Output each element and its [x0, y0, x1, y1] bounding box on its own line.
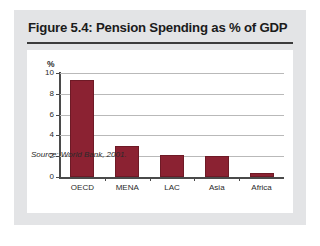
y-tick-label: 8: [50, 90, 54, 98]
x-tick-mark: [150, 177, 151, 181]
figure-panel: Figure 5.4: Pension Spending as % of GDP…: [14, 10, 306, 225]
source-note: Source: World Bank, 2001.: [31, 150, 127, 159]
y-tick-label: 10: [45, 69, 54, 77]
plot-area: 0246810 OECDMENALACAsiaAfrica: [60, 73, 284, 177]
y-tick-mark: [56, 94, 60, 95]
y-tick-label: 6: [50, 111, 54, 119]
bar-africa: [250, 173, 274, 177]
x-tick-label-oecd: OECD: [71, 183, 94, 192]
page-title: Figure 5.4: Pension Spending as % of GDP: [28, 20, 292, 35]
chart-card: % 0246810 OECDMENALACAsiaAfrica: [27, 50, 293, 213]
x-tick-mark: [194, 177, 195, 181]
y-axis-line: [59, 72, 61, 177]
x-tick-label-africa: Africa: [251, 183, 271, 192]
title-divider: [27, 42, 293, 44]
y-tick-label: 4: [50, 131, 54, 139]
x-axis-line: [59, 177, 284, 179]
y-tick-mark: [56, 73, 60, 74]
bar-asia: [205, 156, 229, 177]
bar-oecd: [70, 80, 94, 177]
gridline: [60, 73, 284, 74]
x-tick-label-asia: Asia: [209, 183, 225, 192]
x-tick-label-lac: LAC: [164, 183, 180, 192]
y-tick-label: 0: [50, 173, 54, 181]
y-tick-mark: [56, 115, 60, 116]
y-tick-mark: [56, 135, 60, 136]
x-tick-mark: [239, 177, 240, 181]
x-tick-label-mena: MENA: [116, 183, 139, 192]
y-tick-mark: [56, 177, 60, 178]
bar-lac: [160, 155, 184, 177]
x-tick-mark: [105, 177, 106, 181]
